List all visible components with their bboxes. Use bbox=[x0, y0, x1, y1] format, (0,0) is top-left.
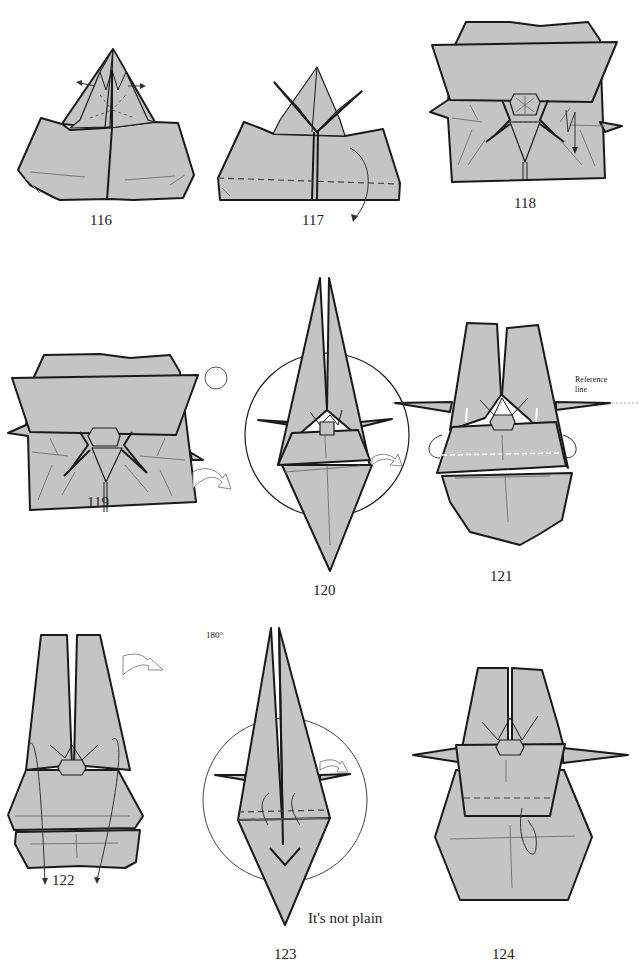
step-123: It's not plain 123 bbox=[190, 620, 400, 966]
step-121-diagram bbox=[390, 290, 639, 590]
reference-label: Reference bbox=[575, 375, 607, 384]
step-124: 124 bbox=[400, 620, 639, 966]
turn-over-arrow-icon bbox=[320, 760, 348, 772]
step-number: 121 bbox=[490, 568, 513, 585]
step-122: 122 bbox=[0, 600, 200, 920]
turn-over-arrow-icon bbox=[123, 654, 163, 675]
step-number: 119 bbox=[87, 494, 109, 511]
step-116-diagram bbox=[0, 0, 210, 240]
step-122-diagram bbox=[0, 600, 200, 920]
step-118: 118 bbox=[410, 0, 639, 240]
fold-behind-arrow-icon bbox=[429, 435, 442, 458]
step-119: 180° 119 bbox=[0, 260, 250, 520]
step-number: 123 bbox=[274, 946, 297, 963]
step-number: 118 bbox=[514, 195, 536, 212]
step-121: Reference line 121 bbox=[390, 290, 639, 590]
step-117: 117 bbox=[200, 0, 410, 240]
step-number: 124 bbox=[492, 946, 515, 963]
step-117-diagram bbox=[200, 0, 410, 240]
note-text: It's not plain bbox=[308, 910, 382, 927]
step-119-diagram bbox=[0, 260, 250, 520]
step-number: 120 bbox=[313, 582, 336, 599]
step-116: 116 bbox=[0, 0, 210, 240]
turn-over-arrow-icon bbox=[193, 469, 231, 489]
step-number: 116 bbox=[90, 212, 112, 229]
step-number: 117 bbox=[302, 212, 324, 229]
step-124-diagram bbox=[400, 620, 639, 966]
rotate-180-icon bbox=[205, 367, 227, 389]
reference-label-line2: line bbox=[575, 385, 587, 394]
step-number: 122 bbox=[52, 872, 75, 889]
